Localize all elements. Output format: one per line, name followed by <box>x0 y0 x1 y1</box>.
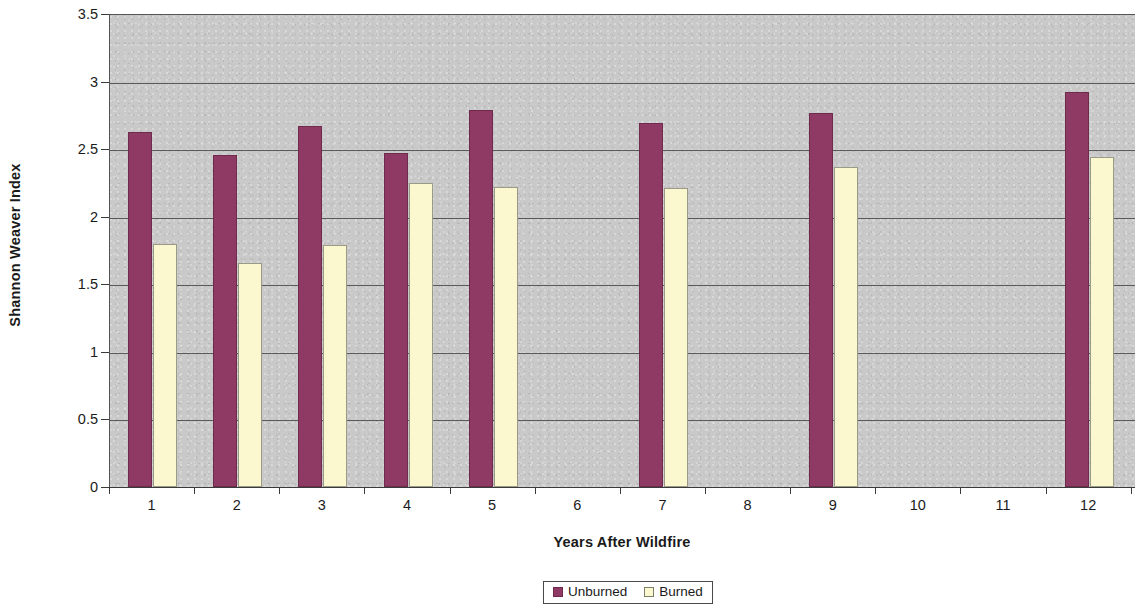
bar-burned-year-5 <box>494 187 518 487</box>
y-axis-tick-label: 3 <box>46 74 98 89</box>
x-axis-tick-mark <box>279 487 280 494</box>
legend-swatch-icon <box>553 587 563 597</box>
bar-burned-year-7 <box>664 188 688 487</box>
x-axis-tick-mark <box>450 487 451 494</box>
x-axis-tick-mark <box>364 487 365 494</box>
bar-unburned-year-9 <box>809 113 833 487</box>
x-axis-title: Years After Wildfire <box>109 534 1135 550</box>
bar-unburned-year-5 <box>469 110 493 487</box>
y-axis-tick-mark <box>101 419 109 420</box>
x-axis-tick-label: 8 <box>728 498 768 513</box>
y-axis-title: Shannon Weaver Index <box>0 0 30 490</box>
x-axis-tick-mark <box>790 487 791 494</box>
x-axis-tick-mark <box>109 487 110 494</box>
x-axis-tick-label: 9 <box>813 498 853 513</box>
x-axis-tick-label: 12 <box>1068 498 1108 513</box>
y-axis-tick-mark <box>101 352 109 353</box>
x-axis-tick-label: 11 <box>983 498 1023 513</box>
x-axis-tick-label: 6 <box>557 498 597 513</box>
bar-unburned-year-12 <box>1065 92 1089 487</box>
gridline <box>110 353 1135 354</box>
x-axis-tick-label: 1 <box>132 498 172 513</box>
x-axis-tick-label: 5 <box>472 498 512 513</box>
bar-burned-year-1 <box>153 244 177 487</box>
x-axis-tick-mark <box>1046 487 1047 494</box>
legend-label: Burned <box>659 585 703 599</box>
x-axis-tick-mark <box>875 487 876 494</box>
bar-burned-year-9 <box>834 167 858 487</box>
bar-burned-year-3 <box>323 245 347 487</box>
chart-legend: UnburnedBurned <box>543 581 713 604</box>
y-axis-tick-mark <box>101 284 109 285</box>
y-axis-tick-label: 2 <box>46 209 98 224</box>
gridline <box>110 285 1135 286</box>
bar-unburned-year-3 <box>298 126 322 487</box>
y-axis-tick-mark <box>101 217 109 218</box>
x-axis-tick-label: 7 <box>642 498 682 513</box>
legend-entry-burned: Burned <box>644 585 703 599</box>
gridline <box>110 420 1135 421</box>
x-axis-tick-label: 4 <box>387 498 427 513</box>
bar-unburned-year-1 <box>128 132 152 487</box>
bar-burned-year-2 <box>238 263 262 487</box>
plot-area <box>109 14 1135 487</box>
x-axis-tick-mark <box>1131 487 1132 494</box>
gridline <box>110 83 1135 84</box>
y-axis-tick-mark <box>101 82 109 83</box>
x-axis-tick-label: 10 <box>898 498 938 513</box>
x-axis-tick-mark <box>535 487 536 494</box>
legend-label: Unburned <box>568 585 627 599</box>
y-axis-tick-label: 1 <box>46 345 98 360</box>
bar-burned-year-12 <box>1090 157 1114 487</box>
y-axis-title-label: Shannon Weaver Index <box>7 163 23 326</box>
y-axis-tick-mark <box>101 149 109 150</box>
legend-swatch-icon <box>644 587 654 597</box>
x-axis-tick-label: 2 <box>217 498 257 513</box>
x-axis-tick-mark <box>960 487 961 494</box>
y-axis-tick-label: 2.5 <box>46 142 98 157</box>
legend-entry-unburned: Unburned <box>553 585 627 599</box>
bar-unburned-year-2 <box>213 155 237 487</box>
x-axis-tick-labels: 123456789101112 <box>109 487 1135 527</box>
x-axis-tick-label: 3 <box>302 498 342 513</box>
y-axis-tick-label: 3.5 <box>46 7 98 22</box>
y-axis-tick-label: 0.5 <box>46 412 98 427</box>
gridline <box>110 218 1135 219</box>
plot-texture-overlay <box>110 15 1135 487</box>
gridline <box>110 150 1135 151</box>
x-axis-tick-mark <box>705 487 706 494</box>
y-axis-tick-label: 0 <box>46 480 98 495</box>
y-axis-tick-mark <box>101 14 109 15</box>
y-axis-tick-mark <box>101 487 109 488</box>
y-axis-tick-label: 1.5 <box>46 277 98 292</box>
x-axis-tick-mark <box>194 487 195 494</box>
bar-unburned-year-7 <box>639 123 663 487</box>
y-axis-tick-labels: 00.511.522.533.5 <box>46 0 98 490</box>
bar-burned-year-4 <box>409 183 433 487</box>
x-axis-tick-mark <box>620 487 621 494</box>
bar-unburned-year-4 <box>384 153 408 487</box>
